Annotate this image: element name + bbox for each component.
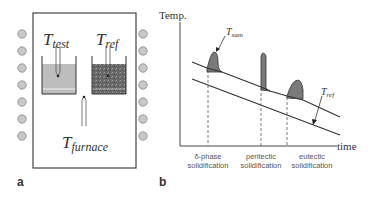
y-axis-label: Temp. bbox=[159, 9, 187, 21]
dta-chart: Temp. time Tsam Tref δ-phasesolidificati… bbox=[159, 9, 357, 170]
sample-curve-label: Tsam bbox=[226, 26, 243, 39]
x-axis-label: time bbox=[337, 140, 357, 152]
sample-arrow-icon bbox=[218, 36, 225, 50]
heater-icon bbox=[139, 64, 147, 72]
test-sample bbox=[42, 64, 76, 94]
event-label-delta-phase: δ-phasesolidification bbox=[188, 152, 229, 170]
heater-icon bbox=[18, 64, 26, 72]
peritectic-peak bbox=[261, 53, 270, 91]
heater-icon bbox=[18, 47, 26, 55]
reference-curve-label: Tref bbox=[321, 86, 335, 99]
panel-a-label: a bbox=[17, 175, 24, 189]
figure: Ttest Tref Tfurnace a Temp. time Tsam Tr… bbox=[0, 0, 371, 197]
heater-icon bbox=[18, 81, 26, 89]
event-label-eutectic: eutecticsolidification bbox=[292, 152, 333, 170]
panel-b-label: b bbox=[159, 175, 166, 189]
heater-icon bbox=[18, 30, 26, 38]
heater-icon bbox=[18, 115, 26, 123]
heater-icon bbox=[139, 132, 147, 140]
heater-icon bbox=[18, 132, 26, 140]
heater-icon bbox=[18, 98, 26, 106]
reference-sample bbox=[92, 64, 126, 94]
event-label-peritectic: peritecticsolidification bbox=[241, 152, 282, 170]
heater-icon bbox=[139, 47, 147, 55]
heater-icon bbox=[139, 81, 147, 89]
furnace-schematic: Ttest Tref Tfurnace bbox=[18, 13, 147, 168]
heater-right-column bbox=[139, 30, 147, 140]
heater-left-column bbox=[18, 30, 26, 140]
heater-icon bbox=[139, 98, 147, 106]
heater-icon bbox=[139, 30, 147, 38]
heater-icon bbox=[139, 115, 147, 123]
